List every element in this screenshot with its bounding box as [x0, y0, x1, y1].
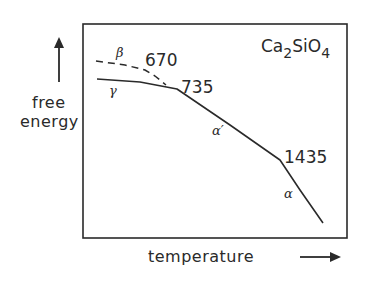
x-axis-arrow-icon [300, 252, 341, 262]
y-axis-label-line1: free [32, 95, 66, 111]
compound-formula: Ca2SiO4 [261, 38, 330, 60]
phase-label-alpha: α [284, 187, 293, 200]
transition-label-735: 735 [181, 79, 213, 96]
formula-ca: Ca [261, 36, 283, 56]
formula-sio: SiO [292, 36, 321, 56]
phase-label-beta: β [116, 46, 124, 59]
phase-label-gamma: γ [109, 84, 117, 97]
formula-sub-2: 2 [283, 45, 292, 61]
transition-label-670: 670 [145, 52, 177, 69]
phase-label-alpha-prime: α′ [212, 124, 224, 137]
y-axis-label-line2: energy [20, 114, 79, 130]
formula-sub-4: 4 [321, 45, 330, 61]
x-axis-label: temperature [148, 249, 254, 265]
y-axis-arrow-icon [54, 37, 64, 82]
transition-label-1435: 1435 [284, 149, 327, 166]
